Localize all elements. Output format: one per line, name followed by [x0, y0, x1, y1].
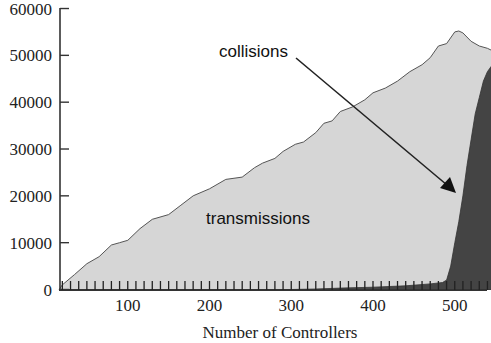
- y-axis: 0100002000030000400005000060000: [10, 0, 70, 300]
- transmissions-area: [59, 31, 491, 290]
- y-tick-label: 20000: [10, 187, 53, 206]
- x-tick-label: 300: [279, 296, 305, 315]
- transmissions-label: transmissions: [206, 209, 310, 228]
- x-axis-title: Number of Controllers: [203, 323, 358, 342]
- x-tick-label: 400: [360, 296, 386, 315]
- plot-area: [59, 31, 491, 290]
- x-tick-label: 200: [197, 296, 223, 315]
- y-tick-label: 40000: [10, 93, 53, 112]
- x-ticks: 100200300400500: [115, 296, 468, 315]
- x-tick-label: 100: [115, 296, 141, 315]
- x-tick-label: 500: [442, 296, 468, 315]
- y-tick-label: 0: [44, 281, 53, 300]
- y-tick-label: 50000: [10, 46, 53, 65]
- y-tick-label: 10000: [10, 234, 53, 253]
- y-tick-label: 30000: [10, 140, 53, 159]
- chart-svg: 0100002000030000400005000060000 10020030…: [0, 0, 491, 343]
- collisions-label: collisions: [219, 42, 288, 61]
- y-tick-label: 60000: [10, 0, 53, 19]
